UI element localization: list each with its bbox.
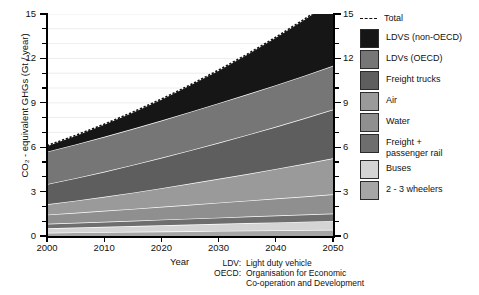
legend-item-4[interactable]: Air <box>360 92 479 111</box>
y-tick-left-7 <box>42 132 46 133</box>
y-tick-left-4 <box>42 176 46 177</box>
legend-item-3[interactable]: Freight trucks <box>360 71 479 90</box>
y-tick-left-11 <box>42 73 46 74</box>
legend-item-5[interactable]: Water <box>360 113 479 132</box>
y-tick-label-right-12: 12 <box>343 53 354 63</box>
legend-dashed-line-icon <box>360 10 377 27</box>
legend-item-6[interactable]: Freight + passenger rail <box>360 134 479 158</box>
y-tick-left-5 <box>42 161 46 162</box>
y-tick-right-6 <box>335 147 341 148</box>
y-tick-right-1 <box>335 221 339 222</box>
footnote: LDV:Light duty vehicleOECD:Organisation … <box>207 258 364 288</box>
x-tick-label-2030: 2030 <box>199 243 239 253</box>
legend-item-label: Air <box>386 92 397 106</box>
y-tick-label-left-15: 15 <box>18 9 36 19</box>
legend-swatch-icon <box>360 160 379 179</box>
y-axis-left-line <box>46 13 48 237</box>
y-tick-left-14 <box>42 28 46 29</box>
y-tick-right-9 <box>335 102 341 103</box>
y-tick-left-13 <box>42 43 46 44</box>
y-tick-right-0 <box>335 235 341 236</box>
x-axis-title: Year <box>170 256 189 267</box>
y-tick-left-8 <box>42 117 46 118</box>
footnote-row-1: OECD:Organisation for Economic <box>207 268 364 278</box>
legend-item-7[interactable]: Buses <box>360 160 479 179</box>
y-tick-label-left-0: 0 <box>18 231 36 241</box>
y-tick-label-right-6: 6 <box>343 142 348 152</box>
legend-swatch-icon <box>360 181 379 200</box>
legend-item-1[interactable]: LDVS (non-OECD) <box>360 29 479 48</box>
y-tick-label-right-9: 9 <box>343 98 348 108</box>
y-tick-left-6 <box>40 147 46 148</box>
legend-item-2[interactable]: LDVs (OECD) <box>360 50 479 69</box>
y-tick-right-13 <box>335 43 339 44</box>
y-tick-right-5 <box>335 161 339 162</box>
footnote-row-0: LDV:Light duty vehicle <box>207 258 364 268</box>
legend-item-0[interactable]: Total <box>360 10 479 27</box>
y-tick-right-14 <box>335 28 339 29</box>
legend-item-label: Water <box>386 113 410 127</box>
legend-item-label: LDVS (non-OECD) <box>386 29 462 43</box>
legend-item-label: LDVs (OECD) <box>386 50 443 64</box>
y-tick-left-0 <box>40 235 46 236</box>
y-tick-left-1 <box>42 221 46 222</box>
y-tick-label-left-3: 3 <box>18 187 36 197</box>
y-tick-left-15 <box>40 13 46 14</box>
x-tick-label-2050: 2050 <box>313 243 353 253</box>
footnote-value: Organisation for Economic <box>246 268 364 278</box>
y-tick-right-12 <box>335 58 341 59</box>
legend-item-label: Freight + passenger rail <box>386 134 443 158</box>
x-tick-label-2000: 2000 <box>27 243 67 253</box>
y-tick-left-12 <box>40 58 46 59</box>
legend-item-label: Freight trucks <box>386 71 441 85</box>
y-tick-right-15 <box>335 13 341 14</box>
legend-item-8[interactable]: 2 - 3 wheelers <box>360 181 479 200</box>
legend-item-label: 2 - 3 wheelers <box>386 181 443 195</box>
y-tick-label-right-15: 15 <box>343 9 354 19</box>
legend-swatch-icon <box>360 71 379 90</box>
y-tick-right-7 <box>335 132 339 133</box>
y-axis-right-line <box>333 13 335 237</box>
footnote-value: Light duty vehicle <box>246 258 364 268</box>
legend-item-label: Buses <box>386 160 411 174</box>
chart-figure: 0033669912121515200020102020203020402050… <box>0 0 479 295</box>
legend-swatch-icon <box>360 113 379 132</box>
y-tick-right-11 <box>335 73 339 74</box>
y-tick-right-10 <box>335 87 339 88</box>
legend-swatch-icon <box>360 134 379 153</box>
legend-swatch-icon <box>360 29 379 48</box>
legend: TotalLDVS (non-OECD)LDVs (OECD)Freight t… <box>360 10 479 202</box>
y-tick-left-9 <box>40 102 46 103</box>
x-tick-label-2040: 2040 <box>256 243 296 253</box>
plot-area <box>47 14 333 236</box>
y-tick-left-10 <box>42 87 46 88</box>
y-tick-left-3 <box>40 191 46 192</box>
footnote-row-2: Co-operation and Development <box>207 278 364 288</box>
legend-swatch-icon <box>360 92 379 111</box>
footnote-value: Co-operation and Development <box>246 278 364 288</box>
x-axis-line <box>46 236 335 238</box>
y-tick-label-right-3: 3 <box>343 187 348 197</box>
y-tick-right-2 <box>335 206 339 207</box>
y-tick-right-4 <box>335 176 339 177</box>
footnote-key <box>207 278 241 288</box>
legend-item-label: Total <box>384 10 403 24</box>
legend-swatch-icon <box>360 50 379 69</box>
x-tick-label-2020: 2020 <box>141 243 181 253</box>
footnote-key: OECD: <box>207 268 241 278</box>
footnote-key: LDV: <box>207 258 241 268</box>
y-tick-right-3 <box>335 191 341 192</box>
y-axis-title: CO₂ - equivalent GHGs (Gt / year) <box>19 26 30 186</box>
y-tick-label-right-0: 0 <box>343 231 348 241</box>
x-tick-label-2010: 2010 <box>84 243 124 253</box>
y-tick-right-8 <box>335 117 339 118</box>
stacked-area-svg <box>47 14 333 236</box>
y-tick-left-2 <box>42 206 46 207</box>
